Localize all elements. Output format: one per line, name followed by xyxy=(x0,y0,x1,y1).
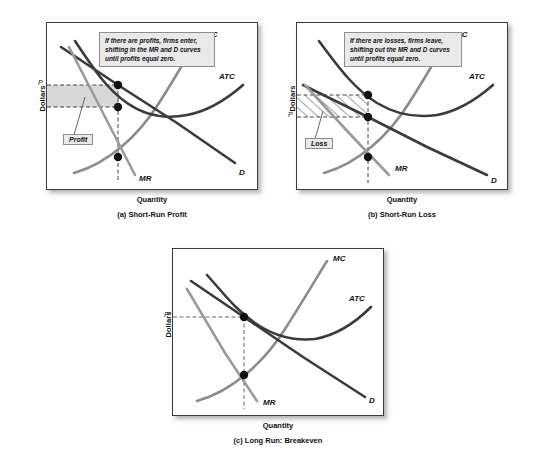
atc-curve-label: ATC xyxy=(218,72,235,81)
price-point-dot xyxy=(364,113,372,121)
mc-curve-label: MC xyxy=(333,254,346,263)
panel-a-ylabel: Dollars xyxy=(38,69,47,129)
demand-curve-label: D xyxy=(491,176,497,185)
panel-c-plot-area: MC ATC D MR xyxy=(172,248,384,416)
panel-a-xlabel: Quantity xyxy=(46,195,258,204)
panel-b-xlabel: Quantity xyxy=(296,195,508,204)
breakeven-point-dot xyxy=(240,313,248,321)
demand-curve-label: D xyxy=(369,396,375,405)
panel-b-callout: If there are losses, firms leave, shifti… xyxy=(344,32,462,67)
panel-short-run-profit: MC ATC D MR If there are profits, firms … xyxy=(46,22,258,220)
demand-curve-label: D xyxy=(239,168,245,177)
mr-mc-point-dot xyxy=(364,153,372,161)
mr-curve-label: MR xyxy=(263,398,276,407)
panel-a-callout: If there are profits, firms enter, shift… xyxy=(99,32,215,67)
demand-curve xyxy=(303,85,487,175)
panel-short-run-loss: MC ATC D MR If there are losses, firms l… xyxy=(296,22,508,220)
mc-curve xyxy=(197,261,327,401)
atc-point-dot xyxy=(114,103,122,111)
mr-mc-point-dot xyxy=(240,371,248,379)
loss-area-tag: Loss xyxy=(305,138,333,149)
panel-a-caption: (a) Short-Run Profit xyxy=(46,210,258,219)
atc-point-dot xyxy=(364,91,372,99)
atc-curve-label: ATC xyxy=(348,294,365,303)
mr-curve xyxy=(187,289,257,401)
mr-curve-label: MR xyxy=(139,174,152,183)
panel-b-caption: (b) Short-Run Loss xyxy=(296,210,508,219)
panel-long-run-breakeven: MC ATC D MR P Dollars Quantity (c) Long … xyxy=(172,248,384,446)
panel-c-xlabel: Quantity xyxy=(172,421,384,430)
panel-c-caption: (c) Long Run: Breakeven xyxy=(172,436,384,445)
panel-c-svg: MC ATC D MR xyxy=(173,249,383,415)
profit-area-tag: Profit xyxy=(63,134,93,145)
price-point-dot xyxy=(114,81,122,89)
profit-area-rect xyxy=(47,85,118,107)
panel-c-ylabel: Dollars xyxy=(164,295,173,355)
mr-mc-point-dot xyxy=(114,153,122,161)
mr-curve-label: MR xyxy=(395,164,408,173)
atc-curve-label: ATC xyxy=(468,72,485,81)
figure-root: MC ATC D MR If there are profits, firms … xyxy=(0,0,540,458)
panel-b-ylabel: Dollars xyxy=(288,69,297,129)
